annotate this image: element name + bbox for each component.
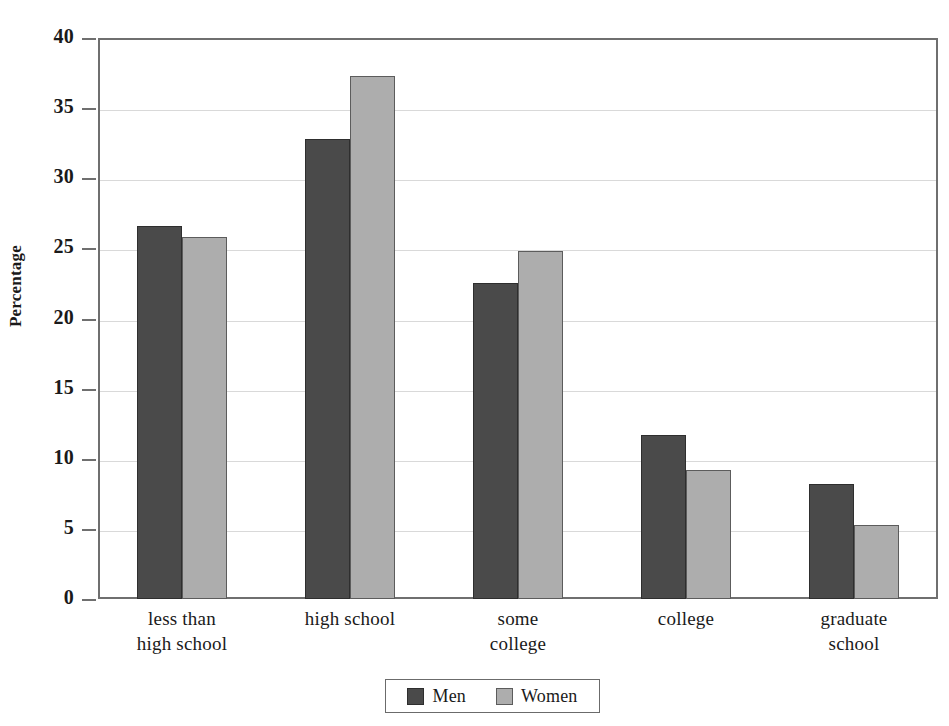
gridline bbox=[100, 250, 936, 251]
gridline bbox=[100, 461, 936, 462]
y-axis-tick-label: 10 bbox=[14, 446, 74, 469]
legend-item-men: Men bbox=[407, 686, 466, 707]
x-axis-label-0: less thanhigh school bbox=[98, 606, 266, 656]
bar-chart: Percentage 0510152025303540 less thanhig… bbox=[0, 0, 949, 726]
x-axis-label-line: graduate bbox=[770, 606, 938, 631]
plot-area bbox=[98, 38, 938, 599]
y-axis-tick-mark bbox=[82, 178, 96, 180]
y-axis-tick-label: 20 bbox=[14, 306, 74, 329]
x-axis-label-4: graduateschool bbox=[770, 606, 938, 656]
gridline bbox=[100, 110, 936, 111]
gridline bbox=[100, 180, 936, 181]
y-axis-tick-mark bbox=[82, 389, 96, 391]
legend-swatch-women-icon bbox=[496, 688, 513, 705]
y-axis-tick-mark bbox=[82, 108, 96, 110]
legend-swatch-men-icon bbox=[407, 688, 424, 705]
y-axis-tick-label: 0 bbox=[14, 586, 74, 609]
y-axis-tick-label: 35 bbox=[14, 95, 74, 118]
x-axis-label-line: some bbox=[434, 606, 602, 631]
y-axis-tick-label: 25 bbox=[14, 235, 74, 258]
x-axis-label-line: high school bbox=[266, 606, 434, 631]
chart-legend: Men Women bbox=[385, 679, 600, 713]
y-axis-tick-label: 5 bbox=[14, 516, 74, 539]
y-axis-tick-label: 40 bbox=[14, 25, 74, 48]
x-axis-label-line: college bbox=[434, 631, 602, 656]
gridline bbox=[100, 531, 936, 532]
y-axis-tick-mark bbox=[82, 38, 96, 40]
x-axis-label-line: high school bbox=[98, 631, 266, 656]
y-axis-tick-mark bbox=[82, 459, 96, 461]
y-axis-tick-mark bbox=[82, 529, 96, 531]
x-axis-label-line: college bbox=[602, 606, 770, 631]
y-axis-tick-label: 15 bbox=[14, 376, 74, 399]
x-axis-label-2: somecollege bbox=[434, 606, 602, 656]
legend-label-women: Women bbox=[521, 686, 578, 707]
legend-item-women: Women bbox=[496, 686, 578, 707]
x-axis-labels: less thanhigh schoolhigh schoolsomecolle… bbox=[98, 606, 938, 668]
y-axis-tick-label: 30 bbox=[14, 165, 74, 188]
x-axis-label-line: school bbox=[770, 631, 938, 656]
x-axis-label-1: high school bbox=[266, 606, 434, 631]
y-axis-tick-mark bbox=[82, 248, 96, 250]
y-axis-tick-mark bbox=[82, 319, 96, 321]
y-axis-tick-mark bbox=[82, 599, 96, 601]
gridline bbox=[100, 391, 936, 392]
x-axis-label-3: college bbox=[602, 606, 770, 631]
gridline bbox=[100, 321, 936, 322]
legend-label-men: Men bbox=[432, 686, 466, 707]
x-axis-label-line: less than bbox=[98, 606, 266, 631]
